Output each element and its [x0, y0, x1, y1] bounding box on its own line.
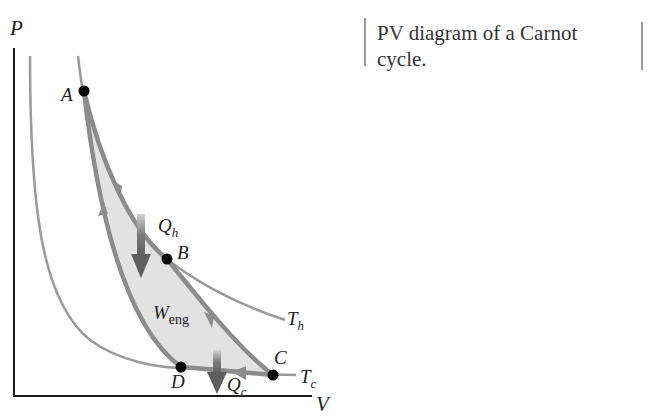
caption-body: diagram of a Carnot cycle. — [377, 21, 577, 71]
point-a — [79, 86, 90, 97]
label-b: B — [177, 242, 189, 263]
x-axis-label: V — [316, 392, 331, 416]
label-d: D — [170, 371, 185, 392]
work-area-fill — [84, 91, 273, 375]
caption-right-rule — [641, 22, 643, 70]
label-c: C — [274, 347, 287, 368]
caption-left-rule — [364, 18, 366, 66]
figure-caption: PV diagram of a Carnot cycle. — [377, 20, 632, 72]
label-a: A — [59, 84, 73, 105]
point-b — [162, 254, 173, 265]
heat-in-label: Qh — [158, 215, 178, 240]
y-axis-label: P — [9, 16, 23, 40]
cold-isotherm-label: Tc — [300, 366, 317, 391]
point-c — [268, 370, 279, 381]
hot-isotherm-label: Th — [287, 308, 304, 333]
caption-pv: PV — [377, 21, 403, 45]
